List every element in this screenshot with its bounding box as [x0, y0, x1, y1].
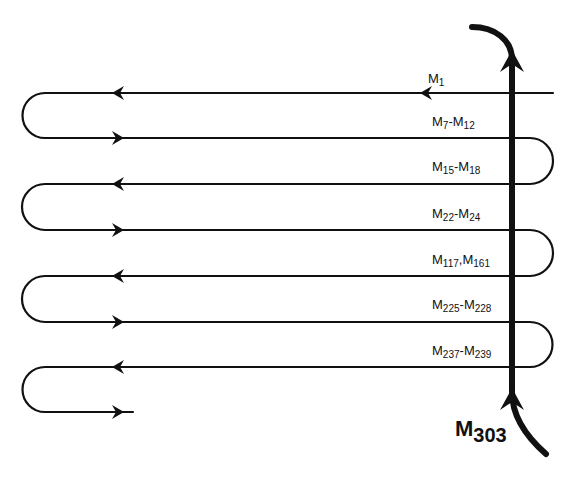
label-m117-m161: M117,M161 [432, 253, 490, 269]
label-m1: M1 [428, 72, 444, 88]
label-m7-m12: M7-M12 [432, 115, 475, 131]
label-m225-m228: M225-M228 [432, 298, 491, 314]
label-m22-m24: M22-M24 [432, 207, 480, 223]
label-m237-m239: M237-M239 [432, 344, 491, 360]
label-m303: M303 [455, 418, 507, 445]
m303-line [472, 27, 546, 454]
serpentine-diagram [0, 0, 578, 480]
arrowheads [112, 86, 432, 419]
label-m15-m18: M15-M18 [432, 160, 480, 176]
